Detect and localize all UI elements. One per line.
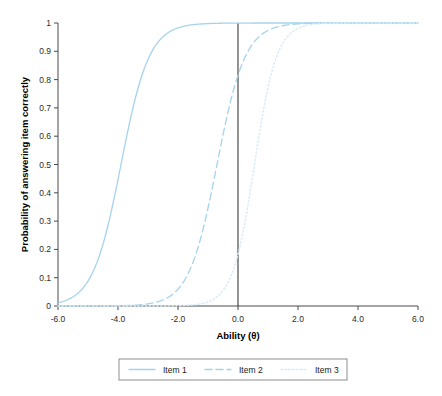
legend-label-item-1: Item 1 — [163, 365, 187, 375]
chart-canvas: 00.10.20.30.40.50.60.70.80.91-6.0-4.0-2.… — [0, 0, 442, 396]
y-axis-tick-label: 0.1 — [39, 273, 51, 283]
y-axis-tick-label: 0.3 — [39, 216, 51, 226]
y-axis-tick-label: 0.2 — [39, 244, 51, 254]
y-axis-tick-label: 0.7 — [39, 103, 51, 113]
legend-label-item-3: Item 3 — [315, 365, 339, 375]
y-axis-tick-label: 0 — [46, 301, 51, 311]
y-axis-tick-label: 0.4 — [39, 188, 51, 198]
y-axis-tick-label: 1 — [46, 18, 51, 28]
x-axis-tick-label: -6.0 — [51, 314, 66, 324]
y-axis-tick-label: 0.5 — [39, 160, 51, 170]
y-axis-tick-label: 0.8 — [39, 75, 51, 85]
x-axis-tick-label: -2.0 — [171, 314, 186, 324]
x-axis-tick-label: 0.0 — [232, 314, 244, 324]
x-axis-tick-label: 6.0 — [412, 314, 424, 324]
y-axis-tick-label: 0.9 — [39, 46, 51, 56]
item-characteristic-curve-chart: 00.10.20.30.40.50.60.70.80.91-6.0-4.0-2.… — [0, 0, 442, 396]
y-axis-title: Probability of answering item correctly — [19, 76, 30, 252]
x-axis-tick-label: 2.0 — [292, 314, 304, 324]
x-axis-tick-label: 4.0 — [352, 314, 364, 324]
y-axis-tick-label: 0.6 — [39, 131, 51, 141]
x-axis-tick-label: -4.0 — [111, 314, 126, 324]
x-axis-title: Ability (θ) — [216, 330, 259, 341]
legend-label-item-2: Item 2 — [239, 365, 263, 375]
